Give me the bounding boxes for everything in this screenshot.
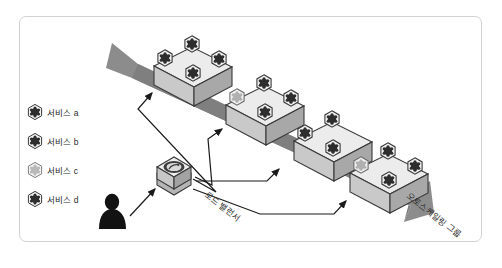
instance-box-1 bbox=[154, 36, 232, 106]
connector-user-to-lb bbox=[130, 189, 155, 216]
service-node-icon bbox=[212, 51, 226, 67]
service-node-icon bbox=[230, 89, 244, 105]
diagram-frame: 서비스 a 서비스 b 서비스 c 서비스 d 로드 밸런서 오토스케일링 그룹 bbox=[19, 16, 482, 242]
hexagon-service-icon bbox=[28, 191, 41, 206]
service-node-icon bbox=[325, 111, 339, 127]
user-person-icon bbox=[99, 194, 126, 229]
legend-icons bbox=[24, 101, 46, 225]
architecture-scene bbox=[20, 17, 481, 241]
hexagon-service-icon bbox=[28, 133, 41, 148]
instance-box-2 bbox=[226, 75, 304, 145]
legend-item-label-service-a: 서비스 a bbox=[47, 106, 79, 118]
service-node-icon bbox=[257, 75, 271, 91]
connector-lb-to-instance-2 bbox=[195, 129, 222, 185]
legend-item-label-service-c: 서비스 c bbox=[47, 164, 78, 176]
service-node-icon bbox=[158, 50, 172, 66]
service-node-icon bbox=[186, 65, 200, 81]
load-balancer-icon bbox=[157, 157, 191, 195]
diagram-canvas: 서비스 a 서비스 b 서비스 c 서비스 d 로드 밸런서 오토스케일링 그룹 bbox=[0, 0, 502, 268]
hexagon-service-icon bbox=[28, 104, 41, 119]
service-node-icon bbox=[326, 140, 340, 156]
service-node-icon bbox=[381, 143, 395, 159]
hexagon-service-icon bbox=[28, 162, 41, 177]
service-node-icon bbox=[354, 157, 368, 173]
service-node-icon bbox=[185, 36, 199, 52]
connector-lb-to-instance-3 bbox=[196, 169, 279, 181]
service-node-icon bbox=[408, 158, 422, 174]
service-node-icon bbox=[382, 172, 396, 188]
legend-item-label-service-b: 서비스 b bbox=[47, 135, 79, 147]
service-node-icon bbox=[298, 125, 312, 141]
legend-item-label-service-d: 서비스 d bbox=[47, 193, 79, 205]
service-node-icon bbox=[258, 104, 272, 120]
service-node-icon bbox=[284, 90, 298, 106]
